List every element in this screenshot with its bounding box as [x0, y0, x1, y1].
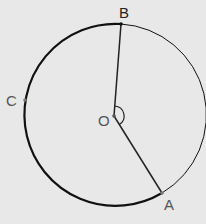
- thick-arc-BCA: [24, 24, 162, 206]
- label-O: O: [98, 113, 110, 128]
- angle-mark-icon: [115, 106, 124, 125]
- point-O: [112, 114, 116, 118]
- radius-OA: [114, 116, 162, 193]
- thin-arc-BA: [121, 24, 206, 193]
- point-A: [160, 191, 164, 195]
- radius-OB: [114, 24, 121, 116]
- point-B: [119, 22, 123, 26]
- point-C: [23, 98, 27, 102]
- label-A: A: [164, 197, 174, 212]
- label-B: B: [119, 5, 129, 20]
- label-C: C: [6, 93, 17, 108]
